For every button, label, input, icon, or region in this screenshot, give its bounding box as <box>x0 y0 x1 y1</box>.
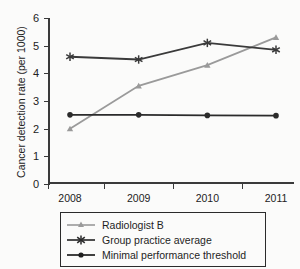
series-layer <box>48 18 294 184</box>
data-point-circle <box>136 112 142 118</box>
series-line <box>70 115 276 116</box>
y-tick-label: 0 <box>33 178 39 190</box>
y-tick-label: 6 <box>33 12 39 24</box>
legend-marker-asterisk-icon <box>67 234 95 246</box>
x-tick-label: 2009 <box>127 192 150 204</box>
legend-marker-circle-icon <box>67 249 95 261</box>
series-minimal-performance-threshold <box>67 112 279 118</box>
series-radiologist-b <box>67 34 279 131</box>
data-point-circle <box>273 113 279 119</box>
legend-item-radiologist-b: Radiologist B <box>67 217 259 232</box>
data-point-circle <box>67 112 73 118</box>
y-tick-label: 2 <box>33 123 39 135</box>
legend-label: Minimal performance threshold <box>102 249 246 261</box>
series-group-practice-average <box>66 39 280 64</box>
chart-legend: Radiologist B Group practice average <box>60 212 266 267</box>
legend-item-minimal-performance-threshold: Minimal performance threshold <box>67 247 259 262</box>
y-tick-label: 1 <box>33 150 39 162</box>
y-tick <box>44 184 50 185</box>
x-tick-label: 2011 <box>265 192 288 204</box>
series-line <box>70 43 276 60</box>
cancer-detection-rate-chart: CANCER DETECTION RATE Cancer detection r… <box>0 0 300 269</box>
x-tick-label: 2008 <box>58 192 81 204</box>
data-point-triangle <box>273 34 279 40</box>
y-axis-title: Cancer detection rate (per 1000) <box>15 17 27 187</box>
x-tick-label: 2010 <box>196 192 219 204</box>
y-tick-label: 3 <box>33 95 39 107</box>
y-tick-label: 4 <box>33 67 39 79</box>
legend-label: Group practice average <box>102 234 212 246</box>
y-tick-label: 5 <box>33 40 39 52</box>
legend-marker-triangle-icon <box>67 219 95 231</box>
data-point-circle <box>205 113 211 119</box>
legend-item-group-practice-average: Group practice average <box>67 232 259 247</box>
legend-label: Radiologist B <box>102 219 164 231</box>
plot-area: 0123456 2008200920102011 <box>48 18 294 184</box>
